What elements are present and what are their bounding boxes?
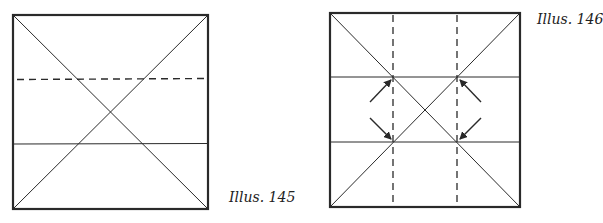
illus-145-caption: Illus. 145 [229,189,295,205]
illus-146-caption: Illus. 146 [537,11,603,27]
dashed-fold-line [17,79,207,80]
arrow-icon [460,118,481,139]
illus-146-figure [330,13,520,207]
arrow-icon [370,80,391,102]
arrow-icon [460,80,481,102]
diagram-canvas [0,0,603,223]
arrow-icon [370,118,391,139]
horizontal-crease [13,144,208,145]
illus-145-figure [13,15,208,209]
